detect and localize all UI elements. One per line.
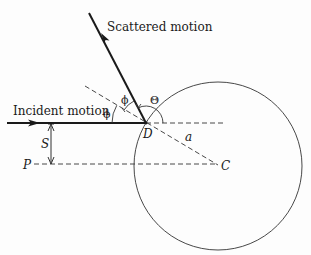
impact-s-label: S [41,137,49,151]
diagram-svg: Scattered motion Incident motion ϕ ϕ Θ D… [0,0,311,255]
sphere-circle [134,82,302,250]
point-d-label: D [142,127,153,141]
point-p-label: P [22,158,32,172]
theta-label: Θ [150,94,159,107]
point-d-marker [145,122,148,125]
scattered-motion-label: Scattered motion [107,20,213,34]
scattering-diagram: Scattered motion Incident motion ϕ ϕ Θ D… [0,0,311,255]
incident-motion-label: Incident motion [13,104,110,118]
point-c-label: C [221,159,230,173]
phi-label-lower: ϕ [103,108,111,121]
phi-label-upper: ϕ [121,94,129,107]
phi-arc-lower [112,105,117,123]
radius-a-label: a [185,130,192,144]
